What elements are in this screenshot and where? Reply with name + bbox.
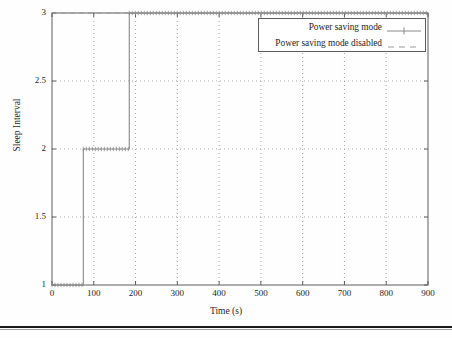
chart-legend: Power saving mode Power saving mode disa… — [258, 18, 426, 52]
legend-sample-dashed-line-icon — [386, 38, 422, 48]
y-tick-label-2: 2 — [20, 143, 46, 153]
x-tick-label-300: 300 — [160, 288, 194, 298]
x-tick-label-100: 100 — [77, 288, 111, 298]
legend-label-1: Power saving mode disabled — [275, 38, 386, 48]
x-axis-label: Time (s) — [0, 306, 452, 316]
x-tick-label-800: 800 — [369, 288, 403, 298]
y-axis-label: Sleep Interval — [12, 80, 22, 170]
legend-entry-power-saving-mode: Power saving mode — [259, 19, 427, 35]
legend-label-0: Power saving mode — [309, 22, 386, 32]
x-tick-label-900: 900 — [411, 288, 445, 298]
page-bottom-rule-shadow — [0, 329, 452, 330]
x-tick-label-700: 700 — [327, 288, 361, 298]
legend-entry-power-saving-mode-disabled: Power saving mode disabled — [259, 35, 427, 51]
y-tick-label-3: 3 — [20, 7, 46, 17]
x-tick-label-400: 400 — [202, 288, 236, 298]
x-tick-label-200: 200 — [119, 288, 153, 298]
y-tick-label-2.5: 2.5 — [20, 75, 46, 85]
x-tick-label-600: 600 — [286, 288, 320, 298]
x-tick-label-500: 500 — [244, 288, 278, 298]
legend-sample-solid-line-icon — [386, 22, 422, 32]
y-tick-label-1.5: 1.5 — [20, 211, 46, 221]
figure-container: Sleep Interval Time (s) 0100200300400500… — [0, 0, 452, 338]
x-tick-label-0: 0 — [35, 288, 69, 298]
page-bottom-rule — [0, 326, 452, 328]
y-tick-label-1: 1 — [20, 279, 46, 289]
